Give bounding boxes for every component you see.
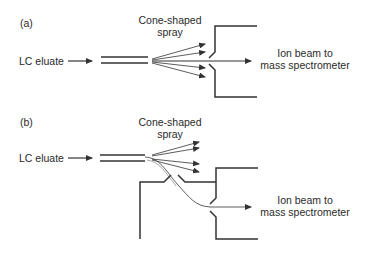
- output-label-a: Ion beam to mass spectrometer: [255, 47, 355, 71]
- spray-label-line1: Cone-shaped: [135, 14, 205, 26]
- output-label-line1: Ion beam to: [255, 47, 355, 59]
- inlet-bottom-wall: [210, 211, 258, 239]
- inlet-top-wall: [210, 168, 258, 204]
- spray-label-line2: spray: [135, 128, 205, 140]
- output-label-b: Ion beam to mass spectrometer: [255, 194, 355, 218]
- panel-b-graphics: [68, 142, 258, 239]
- output-label-line2: mass spectrometer: [255, 206, 355, 218]
- spray-label-b: Cone-shaped spray: [135, 116, 205, 140]
- spray-label-a: Cone-shaped spray: [135, 14, 205, 38]
- input-label-b: LC eluate: [19, 152, 64, 164]
- input-label-a: LC eluate: [19, 55, 64, 67]
- output-label-line1: Ion beam to: [255, 194, 355, 206]
- spray-label-line2: spray: [135, 26, 205, 38]
- spray-label-line1: Cone-shaped: [135, 116, 205, 128]
- outer-chamber-right-wall: [178, 175, 216, 182]
- inlet-bottom-wall: [209, 64, 257, 97]
- inlet-top-wall: [209, 26, 257, 58]
- panel-label-b: (b): [20, 116, 33, 128]
- outer-chamber-left-wall: [140, 175, 171, 239]
- electrospray-diagram: (a) Cone-shaped spray LC eluate Ion beam…: [0, 0, 367, 255]
- panel-label-a: (a): [20, 17, 33, 29]
- output-label-line2: mass spectrometer: [255, 59, 355, 71]
- spray-arrows: [152, 142, 199, 172]
